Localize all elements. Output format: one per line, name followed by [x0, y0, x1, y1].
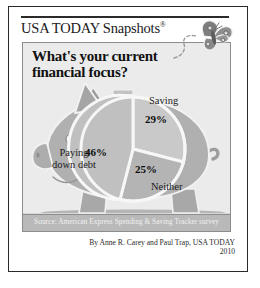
brand-title-text: USA TODAY Snapshots: [21, 20, 160, 36]
byline: By Anne R. Carey and Paul Trap, USA TODA…: [89, 238, 235, 256]
byline-year: 2010: [89, 247, 235, 256]
pie-label-saving: Saving: [149, 95, 178, 106]
snapshot-frame: USA TODAY Snapshots®: [8, 6, 248, 272]
pig-tail: [209, 149, 218, 159]
page-title: What's your current financial focus?: [32, 49, 182, 80]
frame-inner-area: USA TODAY Snapshots®: [12, 10, 244, 268]
chart-panel: ¢ What's your curren: [22, 42, 231, 232]
pie-value-paying-down-debt: 46%: [85, 146, 107, 158]
brand-title: USA TODAY Snapshots®: [21, 20, 166, 37]
coin-slot-icon: [113, 90, 133, 95]
source-strip: Source: American Express Spending & Savi…: [23, 214, 230, 231]
pie-value-neither: 25%: [135, 163, 157, 175]
source-text: Source: American Express Spending & Savi…: [23, 218, 230, 226]
registered-trademark-icon: ®: [160, 20, 166, 29]
byline-credit: By Anne R. Carey and Paul Trap, USA TODA…: [89, 238, 235, 247]
pig-nostril: [36, 152, 39, 157]
butterfly-icon: [170, 16, 242, 62]
pie-value-saving: 29%: [145, 113, 167, 125]
pie-label-neither: Neither: [151, 181, 183, 192]
